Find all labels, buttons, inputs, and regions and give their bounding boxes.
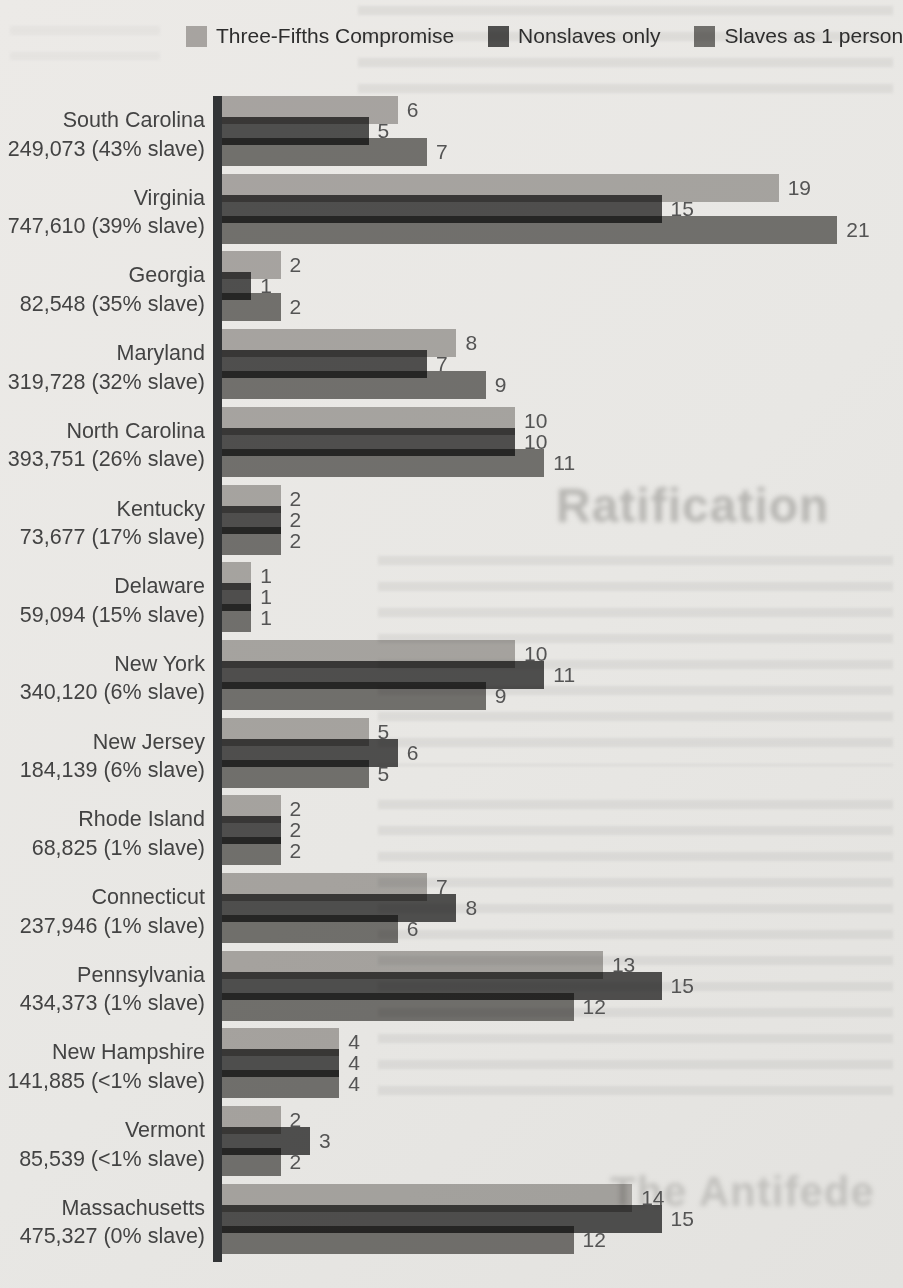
- legend-item: Slaves as 1 person: [694, 24, 903, 48]
- value-label-nonslaves: 3: [319, 1127, 331, 1155]
- value-label-slaves-as-one: 1: [260, 604, 272, 632]
- state-row: Georgia 82,548 (35% slave) 2 1 2: [0, 251, 903, 321]
- bar-slaves-as-one-person: [222, 993, 574, 1021]
- value-label-nonslaves: 7: [436, 350, 448, 378]
- value-label-three-fifths: 6: [407, 96, 419, 124]
- state-row: Connecticut 237,946 (1% slave) 7 8 6: [0, 873, 903, 943]
- state-row: New Hampshire 141,885 (<1% slave) 4 4 4: [0, 1028, 903, 1098]
- state-label: New York 340,120 (6% slave): [0, 650, 205, 707]
- value-label-nonslaves: 1: [260, 272, 272, 300]
- legend-swatch-nonslaves: [488, 26, 509, 47]
- bar-slaves-as-one-person: [222, 760, 369, 788]
- value-label-three-fifths: 5: [378, 718, 390, 746]
- state-row: Rhode Island 68,825 (1% slave) 2 2 2: [0, 795, 903, 865]
- ghost-paragraph-top: [358, 6, 893, 102]
- state-row: New York 340,120 (6% slave) 10 11 9: [0, 640, 903, 710]
- state-label: New Jersey 184,139 (6% slave): [0, 728, 205, 785]
- legend-swatch-slaves-as-one: [694, 26, 715, 47]
- value-label-slaves-as-one: 12: [583, 993, 606, 1021]
- state-row: North Carolina 393,751 (26% slave) 10 10…: [0, 407, 903, 477]
- state-population-stats: 68,825 (1% slave): [0, 834, 205, 863]
- state-label: Pennsylvania 434,373 (1% slave): [0, 961, 205, 1018]
- value-label-slaves-as-one: 7: [436, 138, 448, 166]
- state-label: New Hampshire 141,885 (<1% slave): [0, 1038, 205, 1095]
- bar-slaves-as-one-person: [222, 604, 251, 632]
- bar-slaves-as-one-person: [222, 527, 281, 555]
- state-population-stats: 184,139 (6% slave): [0, 756, 205, 785]
- legend-label: Slaves as 1 person: [724, 24, 903, 48]
- legend-item: Three-Fifths Compromise: [186, 24, 454, 48]
- bar-slaves-as-one-person: [222, 216, 837, 244]
- state-row: Vermont 85,539 (<1% slave) 2 3 2: [0, 1106, 903, 1176]
- state-row: Virginia 747,610 (39% slave) 19 15 21: [0, 174, 903, 244]
- value-label-three-fifths: 14: [641, 1184, 664, 1212]
- legend-swatch-three-fifths: [186, 26, 207, 47]
- legend-item: Nonslaves only: [488, 24, 660, 48]
- legend-label: Nonslaves only: [518, 24, 660, 48]
- state-population-stats: 82,548 (35% slave): [0, 290, 205, 319]
- state-row: Pennsylvania 434,373 (1% slave) 13 15 12: [0, 951, 903, 1021]
- value-label-nonslaves: 11: [553, 661, 575, 689]
- value-label-slaves-as-one: 9: [495, 682, 507, 710]
- bar-slaves-as-one-person: [222, 138, 427, 166]
- bar-slaves-as-one-person: [222, 682, 486, 710]
- state-label: Connecticut 237,946 (1% slave): [0, 883, 205, 940]
- state-name: Virginia: [0, 184, 205, 213]
- state-name: Pennsylvania: [0, 961, 205, 990]
- state-population-stats: 141,885 (<1% slave): [0, 1067, 205, 1096]
- state-population-stats: 475,327 (0% slave): [0, 1222, 205, 1251]
- state-row: Kentucky 73,677 (17% slave) 2 2 2: [0, 485, 903, 555]
- value-label-slaves-as-one: 2: [290, 1148, 302, 1176]
- state-row: Massachusetts 475,327 (0% slave) 14 15 1…: [0, 1184, 903, 1254]
- bar-slaves-as-one-person: [222, 837, 281, 865]
- state-label: Kentucky 73,677 (17% slave): [0, 495, 205, 552]
- state-label: Maryland 319,728 (32% slave): [0, 339, 205, 396]
- state-row: South Carolina 249,073 (43% slave) 6 5 7: [0, 96, 903, 166]
- bar-slaves-as-one-person: [222, 1148, 281, 1176]
- value-label-nonslaves: 6: [407, 739, 419, 767]
- value-label-slaves-as-one: 2: [290, 527, 302, 555]
- state-population-stats: 434,373 (1% slave): [0, 989, 205, 1018]
- state-population-stats: 747,610 (39% slave): [0, 212, 205, 241]
- value-label-nonslaves: 15: [671, 195, 694, 223]
- state-name: Georgia: [0, 261, 205, 290]
- value-label-three-fifths: 8: [465, 329, 477, 357]
- state-row: Delaware 59,094 (15% slave) 1 1 1: [0, 562, 903, 632]
- state-population-stats: 73,677 (17% slave): [0, 523, 205, 552]
- state-label: Virginia 747,610 (39% slave): [0, 184, 205, 241]
- state-population-stats: 340,120 (6% slave): [0, 678, 205, 707]
- state-name: New Jersey: [0, 728, 205, 757]
- bar-slaves-as-one-person: [222, 1226, 574, 1254]
- state-label: South Carolina 249,073 (43% slave): [0, 106, 205, 163]
- state-name: Massachusetts: [0, 1194, 205, 1223]
- bar-slaves-as-one-person: [222, 1070, 339, 1098]
- chart-legend: Three-Fifths Compromise Nonslaves only S…: [186, 24, 903, 48]
- value-label-three-fifths: 19: [788, 174, 811, 202]
- state-population-stats: 249,073 (43% slave): [0, 135, 205, 164]
- state-name: Vermont: [0, 1116, 205, 1145]
- ghost-paragraph-top-left: [10, 26, 160, 60]
- scanned-book-page: { "page": { "background_color": "#e8e7e4…: [0, 0, 903, 1288]
- value-label-nonslaves: 15: [671, 972, 694, 1000]
- value-label-slaves-as-one: 6: [407, 915, 419, 943]
- value-label-nonslaves: 10: [524, 428, 547, 456]
- state-population-stats: 59,094 (15% slave): [0, 601, 205, 630]
- state-name: North Carolina: [0, 417, 205, 446]
- state-row: New Jersey 184,139 (6% slave) 5 6 5: [0, 718, 903, 788]
- bar-slaves-as-one-person: [222, 449, 544, 477]
- value-label-slaves-as-one: 2: [290, 293, 302, 321]
- value-label-slaves-as-one: 4: [348, 1070, 360, 1098]
- value-label-nonslaves: 8: [465, 894, 477, 922]
- state-name: Rhode Island: [0, 805, 205, 834]
- state-name: New York: [0, 650, 205, 679]
- state-name: Connecticut: [0, 883, 205, 912]
- state-label: North Carolina 393,751 (26% slave): [0, 417, 205, 474]
- state-row: Maryland 319,728 (32% slave) 8 7 9: [0, 329, 903, 399]
- representation-bar-chart: South Carolina 249,073 (43% slave) 6 5 7…: [0, 96, 903, 1276]
- state-population-stats: 237,946 (1% slave): [0, 912, 205, 941]
- value-label-three-fifths: 2: [290, 251, 302, 279]
- value-label-slaves-as-one: 12: [583, 1226, 606, 1254]
- state-population-stats: 393,751 (26% slave): [0, 445, 205, 474]
- state-name: Kentucky: [0, 495, 205, 524]
- state-population-stats: 85,539 (<1% slave): [0, 1145, 205, 1174]
